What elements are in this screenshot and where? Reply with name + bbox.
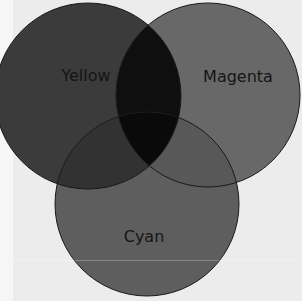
cyan-label: Cyan [124, 227, 165, 246]
yellow-label: Yellow [60, 66, 110, 85]
magenta-label: Magenta [203, 67, 273, 86]
scan-line [13, 260, 302, 261]
venn-diagram: Yellow Magenta Cyan [0, 0, 302, 301]
